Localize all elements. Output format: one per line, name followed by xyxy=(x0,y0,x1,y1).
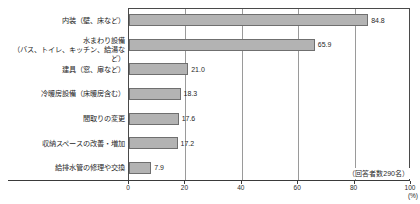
bar-row: 内装（壁、床など）84.8 xyxy=(0,8,420,33)
axis-origin-stub xyxy=(8,180,128,181)
x-tick-label: 0 xyxy=(126,184,130,192)
bar-value-label: 7.9 xyxy=(154,163,164,172)
bar xyxy=(129,63,188,75)
bar xyxy=(129,88,181,100)
category-label: 給排水管の修理や交換 xyxy=(7,163,125,172)
x-tick-label: 100 xyxy=(405,184,416,192)
bar-value-label: 17.2 xyxy=(181,139,195,148)
bar-row: 建具（窓、扉など）21.0 xyxy=(0,57,420,82)
category-label: 収納スペースの改善・増加 xyxy=(7,139,125,148)
bar-value-label: 65.9 xyxy=(318,40,332,49)
x-tick-label: 80 xyxy=(350,184,357,192)
category-label: 建具（窓、扉など） xyxy=(7,65,125,74)
x-axis-unit-label: (%) xyxy=(408,192,418,200)
bar-chart: 020406080100 (%) 内装（壁、床など）84.8水まわり設備 （バス… xyxy=(0,0,420,204)
bar-row: 間取りの変更17.6 xyxy=(0,106,420,131)
bar-row: 水まわり設備 （バス、トイレ、キッチン、給湯など）65.9 xyxy=(0,33,420,58)
bar-value-label: 18.3 xyxy=(184,89,198,98)
bar-value-label: 21.0 xyxy=(191,65,205,74)
x-axis-line xyxy=(128,180,410,181)
bar xyxy=(129,14,368,26)
bar-row: 収納スペースの改善・増加17.2 xyxy=(0,131,420,156)
respondent-count-annotation: （回答者数290名） xyxy=(347,168,410,179)
bar-value-label: 84.8 xyxy=(371,16,385,25)
category-label: 冷暖房設備（床暖房含む） xyxy=(7,89,125,98)
bar xyxy=(129,113,179,125)
bar xyxy=(129,162,151,174)
x-tick-label: 40 xyxy=(237,184,244,192)
bar xyxy=(129,39,315,51)
x-tick-label: 20 xyxy=(181,184,188,192)
bar-row: 冷暖房設備（床暖房含む）18.3 xyxy=(0,82,420,107)
bar xyxy=(129,137,178,149)
category-label: 内装（壁、床など） xyxy=(7,16,125,25)
bar-rows: 内装（壁、床など）84.8水まわり設備 （バス、トイレ、キッチン、給湯など）65… xyxy=(0,8,420,180)
category-label: 間取りの変更 xyxy=(7,114,125,123)
bar-value-label: 17.6 xyxy=(182,114,196,123)
x-tick-label: 60 xyxy=(294,184,301,192)
